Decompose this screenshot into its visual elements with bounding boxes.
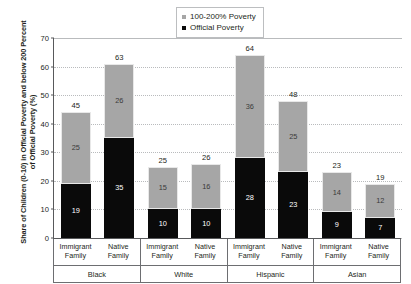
plot-area: 0102030405060702519452635631510251610263…: [53, 38, 402, 238]
x-axis-group-black: ImmigrantFamilyNativeFamilyBlack: [53, 239, 140, 283]
bar-segment-value-100-200-poverty: 25: [72, 144, 80, 151]
bar-total-label: 63: [115, 53, 123, 62]
bar-segment-official-poverty: 19: [61, 184, 91, 238]
y-axis-tick-label-0: 0: [45, 234, 49, 243]
bar-segment-value-100-200-poverty: 14: [333, 189, 341, 196]
bar-total-label: 19: [376, 173, 384, 182]
y-axis-title-container: Share of Children (0-10) in Official Pov…: [0, 0, 23, 250]
x-axis-group-label-hispanic: Hispanic: [228, 266, 314, 283]
x-axis-subcategory-row: ImmigrantFamilyNativeFamily: [314, 239, 400, 266]
bar-total-label: 26: [202, 153, 210, 162]
gridline-70: [54, 38, 402, 39]
bar-segment-value-official-poverty: 9: [335, 221, 339, 228]
y-axis-tick-label-40: 40: [41, 119, 49, 128]
bar-black-immigrant-family: 251945: [61, 112, 91, 238]
bar-segment-official-poverty: 23: [278, 172, 308, 238]
x-axis-subcategory-row: ImmigrantFamilyNativeFamily: [54, 239, 140, 266]
y-axis-title: Share of Children (0-10) in Official Pov…: [19, 18, 38, 246]
bar-total-label: 64: [246, 44, 254, 53]
x-axis-subcategory-label-native-family: NativeFamily: [270, 239, 313, 265]
x-axis-group-label-white: White: [141, 266, 227, 283]
x-axis-subcategory-label-native-family: NativeFamily: [97, 239, 140, 265]
bar-black-native-family: 263563: [104, 64, 134, 238]
bar-segment-official-poverty: 35: [104, 138, 134, 238]
bar-segment-100-200-poverty: 16: [191, 164, 221, 210]
y-tick-mark-50: [51, 95, 54, 96]
x-axis-subcategory-row: ImmigrantFamilyNativeFamily: [141, 239, 227, 266]
bar-segment-value-100-200-poverty: 12: [376, 197, 384, 204]
bar-segment-100-200-poverty: 36: [235, 55, 265, 158]
x-axis-category-table: ImmigrantFamilyNativeFamilyBlackImmigran…: [53, 239, 401, 283]
bar-segment-100-200-poverty: 25: [61, 112, 91, 183]
bar-segment-value-official-poverty: 10: [202, 220, 210, 227]
x-axis-subcategory-label-immigrant-family: ImmigrantFamily: [54, 239, 97, 265]
bar-segment-value-100-200-poverty: 26: [115, 97, 123, 104]
legend-swatch-gray-icon: [182, 15, 186, 19]
bar-segment-value-100-200-poverty: 15: [159, 184, 167, 191]
bar-total-label: 48: [289, 90, 297, 99]
bar-segment-value-official-poverty: 28: [246, 194, 254, 201]
poverty-stacked-bar-chart: Share of Children (0-10) in Official Pov…: [0, 0, 411, 284]
bar-segment-value-official-poverty: 10: [159, 220, 167, 227]
x-axis-group-label-asian: Asian: [314, 266, 400, 283]
y-tick-mark-30: [51, 152, 54, 153]
bar-asian-native-family: 12719: [365, 184, 395, 238]
bar-segment-value-100-200-poverty: 25: [289, 133, 297, 140]
bar-white-immigrant-family: 151025: [148, 167, 178, 238]
legend-swatch-black-icon: [182, 26, 186, 30]
x-axis-group-hispanic: ImmigrantFamilyNativeFamilyHispanic: [227, 239, 314, 283]
bar-segment-value-official-poverty: 35: [115, 184, 123, 191]
bar-segment-100-200-poverty: 14: [322, 172, 352, 212]
y-axis-tick-label-70: 70: [41, 34, 49, 43]
x-axis-subcategory-label-native-family: NativeFamily: [357, 239, 400, 265]
x-axis-subcategory-label-immigrant-family: ImmigrantFamily: [141, 239, 184, 265]
bar-segment-value-100-200-poverty: 36: [246, 103, 254, 110]
legend-label-100-200-poverty: 100-200% Poverty: [190, 12, 256, 21]
x-axis-subcategory-row: ImmigrantFamilyNativeFamily: [228, 239, 314, 266]
legend-label-official-poverty: Official Poverty: [190, 23, 244, 32]
y-axis-tick-label-10: 10: [41, 205, 49, 214]
bar-segment-100-200-poverty: 15: [148, 167, 178, 210]
bar-segment-official-poverty: 28: [235, 158, 265, 238]
bar-total-label: 45: [72, 101, 80, 110]
y-axis-tick-label-30: 30: [41, 148, 49, 157]
x-axis-subcategory-label-native-family: NativeFamily: [184, 239, 227, 265]
y-axis-tick-label-50: 50: [41, 91, 49, 100]
y-tick-mark-40: [51, 123, 54, 124]
y-axis-tick-label-60: 60: [41, 62, 49, 71]
bar-segment-official-poverty: 10: [191, 209, 221, 238]
x-axis-group-label-black: Black: [54, 266, 140, 283]
bar-segment-value-100-200-poverty: 16: [202, 183, 210, 190]
bar-segment-100-200-poverty: 12: [365, 184, 395, 218]
bar-segment-value-official-poverty: 19: [72, 207, 80, 214]
bar-segment-100-200-poverty: 25: [278, 101, 308, 172]
x-axis-group-white: ImmigrantFamilyNativeFamilyWhite: [140, 239, 227, 283]
legend: 100-200% Poverty Official Poverty: [176, 7, 264, 38]
bar-segment-value-official-poverty: 23: [289, 201, 297, 208]
legend-item-official-poverty: Official Poverty: [182, 22, 256, 33]
y-tick-mark-70: [51, 38, 54, 39]
y-tick-mark-60: [51, 66, 54, 67]
bar-hispanic-immigrant-family: 362864: [235, 55, 265, 238]
y-tick-mark-20: [51, 180, 54, 181]
x-axis-subcategory-label-immigrant-family: ImmigrantFamily: [314, 239, 357, 265]
y-tick-mark-10: [51, 209, 54, 210]
legend-item-100-200-poverty: 100-200% Poverty: [182, 11, 256, 22]
y-axis-tick-label-20: 20: [41, 176, 49, 185]
x-axis-subcategory-label-immigrant-family: ImmigrantFamily: [228, 239, 271, 265]
bar-segment-value-official-poverty: 7: [378, 224, 382, 231]
bar-hispanic-native-family: 252348: [278, 101, 308, 238]
bar-segment-official-poverty: 9: [322, 212, 352, 238]
bar-total-label: 25: [159, 156, 167, 165]
bar-segment-official-poverty: 7: [365, 218, 395, 238]
bar-asian-immigrant-family: 14923: [322, 172, 352, 238]
bar-total-label: 23: [333, 161, 341, 170]
bar-white-native-family: 161026: [191, 164, 221, 238]
bar-segment-official-poverty: 10: [148, 209, 178, 238]
x-axis-group-asian: ImmigrantFamilyNativeFamilyAsian: [313, 239, 401, 283]
bar-segment-100-200-poverty: 26: [104, 64, 134, 138]
